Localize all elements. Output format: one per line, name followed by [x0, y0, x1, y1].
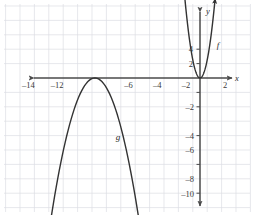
x-tick-label: –12	[50, 80, 64, 90]
y-tick-label: –2	[185, 102, 195, 112]
x-axis-label: x	[234, 73, 239, 83]
graph-figure: x y –14 –12 –6 –4 –2 2 4 2 –2 –4 –6 –8	[0, 0, 253, 215]
y-tick-label: –10	[180, 189, 194, 199]
x-tick-label: –14	[21, 80, 36, 90]
x-tick-label: –6	[123, 80, 133, 90]
y-tick-label: –8	[185, 174, 195, 184]
x-tick-label: –4	[152, 80, 162, 90]
y-tick-label: –4	[185, 131, 195, 141]
coordinate-plane: x y –14 –12 –6 –4 –2 2 4 2 –2 –4 –6 –8	[0, 0, 253, 215]
figure-background	[0, 0, 253, 215]
curve-label-g: g	[116, 132, 121, 142]
y-axis-label: y	[205, 6, 210, 16]
x-tick-label: 2	[223, 80, 227, 90]
x-tick-label: –2	[181, 80, 191, 90]
y-tick-label: –6	[185, 145, 195, 155]
